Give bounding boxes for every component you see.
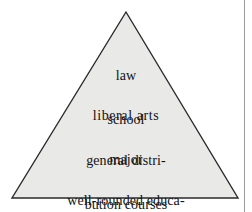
pyramid-tier-well-rounded-education: well-rounded educa- tion before college: [0, 165, 252, 212]
page-gutter-rule: [244, 0, 245, 212]
figure-root: law school liberal arts major general di…: [0, 0, 252, 212]
tier-line: well-rounded educa-: [0, 194, 252, 209]
tier-line: liberal arts: [0, 109, 252, 124]
